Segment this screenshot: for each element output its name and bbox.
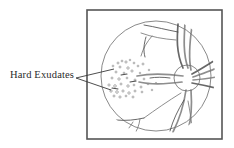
hard-exudates-label: Hard Exudates — [10, 69, 74, 81]
figure-page: Hard Exudates — [0, 0, 234, 148]
